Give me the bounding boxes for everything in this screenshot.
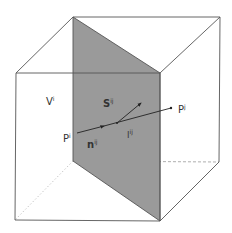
- interface-plane: [73, 17, 160, 221]
- point-j-dot: [170, 107, 172, 109]
- volume-label: Vi: [46, 95, 55, 107]
- point-j-label: Pj: [178, 103, 186, 115]
- point-i-label: Pi: [63, 132, 71, 144]
- cube-diagram: Vi Sij Pi Pj nij lij: [0, 0, 232, 233]
